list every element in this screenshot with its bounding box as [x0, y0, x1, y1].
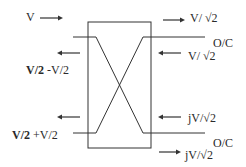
out-top-forward-label: V/ √2 — [190, 12, 218, 24]
arrow-right-icon — [163, 18, 185, 23]
out-bottom-forward-label: jV/√2 — [185, 149, 213, 161]
port-top-label: O/C — [213, 37, 233, 49]
reflected-top-bold: V/2 — [26, 63, 44, 77]
through-path-top-to-bottom — [73, 37, 205, 133]
port-bottom-label: O/C — [213, 137, 233, 149]
through-path-bottom-to-top — [73, 37, 205, 133]
arrow-left-icon — [57, 115, 80, 120]
reflected-top-label: V/2 -V/2 — [26, 64, 69, 76]
reflected-top-rest: -V/2 — [44, 63, 69, 77]
input-label: V — [26, 11, 35, 23]
reflected-bottom-bold: V/2 — [12, 128, 30, 142]
arrow-left-icon — [57, 51, 80, 56]
out-bottom-return-label: jV/√2 — [188, 112, 216, 124]
arrow-left-icon — [158, 115, 181, 120]
arrow-right-icon — [159, 150, 181, 155]
arrow-right-icon — [40, 16, 63, 21]
reflected-bottom-rest: +V/2 — [30, 128, 58, 142]
out-top-return-label: V/ √2 — [188, 50, 216, 62]
arrow-left-icon — [158, 51, 181, 56]
reflected-bottom-label: V/2 +V/2 — [12, 129, 58, 141]
